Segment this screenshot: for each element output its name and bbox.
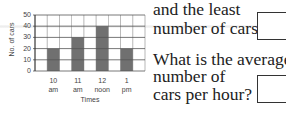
y-tick-label: 40	[10, 22, 31, 30]
x-tick-label: 11am	[66, 76, 90, 94]
question-2-line-3: cars per hour?	[153, 86, 252, 103]
y-tick-label: 50	[10, 11, 31, 19]
x-tick-label: 10am	[41, 76, 65, 94]
x-tick-label: 12noon	[90, 76, 114, 94]
answer-box-least-cars[interactable]	[257, 12, 286, 40]
answer-box-average-cars[interactable]	[257, 75, 286, 103]
y-tick-label: 10	[10, 56, 31, 64]
question-2-line-2: number of	[153, 68, 225, 85]
x-axis-label: Times	[70, 96, 110, 103]
question-1-line-1: and the least	[153, 1, 240, 18]
x-tick-label: 1pm	[115, 76, 139, 94]
bar-11-am	[72, 37, 84, 71]
question-1-line-2: number of cars?	[153, 20, 266, 37]
y-tick-label: 30	[10, 33, 31, 41]
y-tick-label: 0	[10, 67, 31, 75]
bar-chart: No. of cars 01020304050 10am11am12noon1p…	[0, 0, 150, 117]
y-tick-label: 20	[10, 45, 31, 53]
